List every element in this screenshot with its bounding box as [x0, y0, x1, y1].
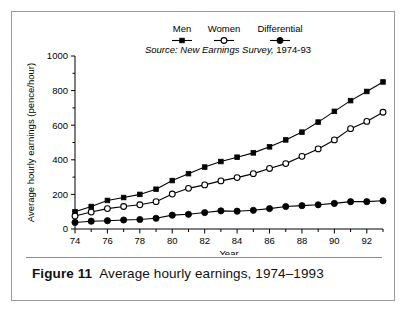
data-point	[381, 80, 386, 85]
data-point	[153, 199, 159, 205]
x-tick-label: 74	[70, 235, 81, 246]
data-point	[364, 118, 370, 124]
data-point	[267, 145, 272, 150]
data-point	[348, 98, 353, 103]
data-point	[104, 218, 110, 224]
data-point	[283, 203, 289, 209]
data-point	[315, 146, 321, 152]
data-point	[300, 130, 305, 135]
source-note: Source: New Earnings Survey, 1974-93	[145, 44, 311, 55]
y-tick-label: 600	[52, 120, 68, 131]
series-differential	[72, 198, 386, 226]
data-point	[185, 211, 191, 217]
data-point	[364, 199, 370, 205]
data-point	[137, 216, 143, 222]
earnings-line-chart: 0200400600800100074767880828486889092Yea…	[12, 12, 396, 255]
data-point	[186, 171, 191, 176]
data-point	[316, 120, 321, 125]
data-point	[283, 138, 288, 143]
data-point	[332, 109, 337, 114]
x-tick-label: 86	[264, 235, 275, 246]
data-point	[219, 159, 224, 164]
chart-plot-area: 0200400600800100074767880828486889092Yea…	[12, 12, 396, 255]
data-point	[267, 166, 273, 172]
data-point	[234, 175, 240, 181]
data-point	[105, 206, 111, 212]
data-point	[331, 200, 337, 206]
data-point	[105, 198, 110, 203]
data-point	[331, 137, 337, 143]
x-tick-label: 84	[232, 235, 243, 246]
figure-caption: Figure 11Average hourly earnings, 1974–1…	[32, 266, 382, 281]
data-point	[299, 153, 305, 159]
data-point	[380, 109, 386, 115]
data-point	[186, 185, 192, 191]
data-point	[72, 213, 78, 219]
data-point	[202, 182, 208, 188]
data-point	[169, 212, 175, 218]
data-point	[364, 89, 369, 94]
data-point	[315, 202, 321, 208]
y-tick-label: 400	[52, 154, 68, 165]
chart-legend: MenWomenDifferential	[172, 23, 303, 44]
legend-label: Differential	[257, 23, 302, 34]
data-point	[138, 192, 143, 197]
data-point	[380, 198, 386, 204]
y-tick-label: 1000	[47, 50, 68, 61]
legend-label: Men	[173, 23, 191, 34]
data-point	[283, 161, 289, 167]
data-point	[251, 151, 256, 156]
data-point	[121, 195, 126, 200]
legend-label: Women	[208, 23, 241, 34]
legend-marker	[221, 38, 227, 44]
data-point	[348, 126, 354, 132]
data-point	[299, 203, 305, 209]
source-note-text: Source: New Earnings Survey,	[145, 44, 274, 55]
data-point	[250, 207, 256, 213]
series-line	[75, 82, 383, 212]
data-point	[202, 165, 207, 170]
data-point	[88, 209, 94, 215]
data-point	[121, 204, 127, 210]
x-tick-label: 80	[167, 235, 178, 246]
data-point	[137, 202, 143, 208]
x-axis-title: Year	[219, 248, 238, 255]
series-men	[73, 80, 386, 214]
source-note-years: 1974-93	[274, 44, 312, 55]
y-tick-label: 800	[52, 85, 68, 96]
data-point	[234, 208, 240, 214]
x-tick-label: 92	[362, 235, 373, 246]
data-point	[154, 187, 159, 192]
legend-marker	[180, 38, 185, 43]
legend-marker	[277, 37, 283, 43]
data-point	[121, 217, 127, 223]
data-point	[169, 191, 175, 197]
data-point	[250, 171, 256, 177]
data-point	[202, 209, 208, 215]
data-point	[170, 178, 175, 183]
figure-caption-text: Average hourly earnings, 1974–1993	[99, 266, 324, 281]
data-point	[89, 204, 94, 209]
x-tick-label: 90	[329, 235, 340, 246]
x-tick-label: 82	[199, 235, 210, 246]
data-point	[72, 219, 78, 225]
data-point	[347, 199, 353, 205]
data-point	[88, 218, 94, 224]
figure-container: 0200400600800100074767880828486889092Yea…	[11, 11, 395, 301]
data-point	[218, 208, 224, 214]
data-point	[235, 155, 240, 160]
data-point	[218, 178, 224, 184]
x-tick-label: 76	[102, 235, 113, 246]
y-tick-label: 0	[63, 223, 68, 234]
y-tick-label: 200	[52, 189, 68, 200]
caption-divider	[26, 257, 382, 258]
x-tick-label: 78	[135, 235, 146, 246]
data-point	[266, 205, 272, 211]
figure-number: Figure 11	[32, 266, 92, 281]
x-tick-label: 88	[297, 235, 308, 246]
y-axis-title: Average hourly earnings (pence/hour)	[25, 63, 36, 222]
data-point	[153, 215, 159, 221]
series-line	[75, 112, 383, 216]
